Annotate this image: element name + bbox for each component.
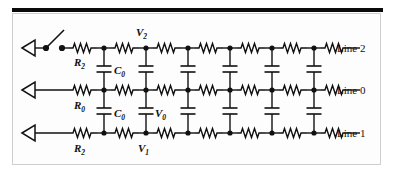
figure-canvas: V2 R2 C0 R0 C0 V0 R2 V1 Line 2 bbox=[0, 0, 395, 180]
line2-resistor-2 bbox=[111, 44, 139, 53]
line1-resistor-3 bbox=[153, 129, 181, 138]
capacitor-l1 bbox=[97, 90, 112, 133]
label-v0: V0 bbox=[155, 107, 166, 122]
label-line2: Line 2 bbox=[337, 42, 365, 54]
label-r2-bottom: R2 bbox=[73, 142, 85, 157]
line0-resistor-1 bbox=[69, 86, 97, 95]
capacitor-l5 bbox=[265, 90, 280, 133]
capacitor-u2 bbox=[139, 48, 154, 90]
line2-resistor-5 bbox=[237, 44, 265, 53]
line1-resistor-1 bbox=[69, 129, 97, 138]
label-v2: V2 bbox=[136, 26, 147, 41]
line0-resistor-6 bbox=[279, 86, 307, 95]
line2-resistor-4 bbox=[195, 44, 223, 53]
line2-group bbox=[22, 30, 360, 56]
capacitor-u1 bbox=[97, 48, 112, 90]
label-r2-top: R2 bbox=[73, 56, 85, 71]
label-line1: Line 1 bbox=[337, 127, 365, 139]
line1-terminal-arrow-icon bbox=[22, 125, 35, 141]
capacitor-l6 bbox=[307, 90, 322, 133]
line0-resistor-2 bbox=[111, 86, 139, 95]
line2-switch[interactable] bbox=[35, 30, 65, 51]
line1-resistor-5 bbox=[237, 129, 265, 138]
line0-resistor-5 bbox=[237, 86, 265, 95]
capacitor-u4 bbox=[223, 48, 238, 90]
label-r0-mid: R0 bbox=[73, 99, 85, 114]
line1-resistor-2 bbox=[111, 129, 139, 138]
coupling-caps-upper bbox=[97, 48, 322, 90]
line0-resistor-4 bbox=[195, 86, 223, 95]
label-c0-lower: C0 bbox=[114, 107, 125, 122]
label-c0-upper: C0 bbox=[114, 64, 125, 79]
line0-group bbox=[22, 82, 360, 98]
line1-resistor-6 bbox=[279, 129, 307, 138]
circuit-diagram-svg: V2 R2 C0 R0 C0 V0 R2 V1 Line 2 bbox=[0, 0, 395, 180]
line0-resistor-3 bbox=[153, 86, 181, 95]
line2-resistor-6 bbox=[279, 44, 307, 53]
line1-resistor-4 bbox=[195, 129, 223, 138]
coupling-caps-lower bbox=[97, 90, 322, 133]
capacitor-u5 bbox=[265, 48, 280, 90]
label-line0: Line 0 bbox=[337, 84, 366, 96]
capacitor-l4 bbox=[223, 90, 238, 133]
label-v1: V1 bbox=[138, 142, 149, 157]
capacitor-l3 bbox=[181, 90, 196, 133]
line2-resistor-1 bbox=[69, 44, 97, 53]
line0-terminal-arrow-icon bbox=[22, 82, 35, 98]
capacitor-u6 bbox=[307, 48, 322, 90]
capacitor-l2 bbox=[139, 90, 154, 133]
line1-group bbox=[22, 125, 360, 141]
line2-terminal-arrow-icon bbox=[22, 40, 35, 56]
line2-resistor-3 bbox=[153, 44, 181, 53]
capacitor-u3 bbox=[181, 48, 196, 90]
